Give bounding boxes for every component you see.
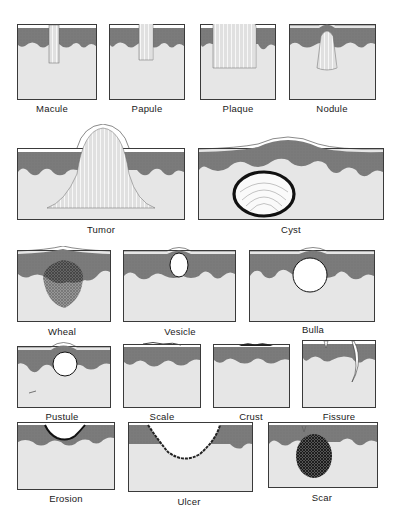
pustule-illustration (17, 342, 111, 408)
scale-illustration (123, 342, 201, 408)
panel-scar (268, 420, 378, 488)
label-tumor: Tumor (87, 224, 115, 235)
panel-scale (123, 342, 201, 408)
panel-cyst (198, 124, 384, 220)
label-ulcer: Ulcer (177, 496, 200, 507)
panel-nodule (289, 24, 376, 100)
label-erosion: Erosion (49, 493, 83, 504)
panel-plaque (200, 24, 276, 100)
label-vesicle: Vesicle (164, 326, 196, 337)
panel-ulcer (128, 420, 253, 492)
label-nodule: Nodule (316, 103, 347, 114)
nodule-illustration (289, 24, 376, 100)
panel-macule (17, 24, 97, 100)
crust-illustration (213, 342, 290, 408)
panel-vesicle (123, 246, 236, 322)
panel-wheal (17, 246, 111, 322)
vesicle-illustration (123, 246, 236, 322)
label-papule: Papule (132, 103, 163, 114)
label-macule: Macule (36, 103, 68, 114)
label-scar: Scar (312, 492, 332, 503)
wheal-illustration (17, 246, 111, 322)
label-plaque: Plaque (223, 103, 254, 114)
panel-fissure (302, 338, 376, 408)
papule-illustration (109, 24, 185, 100)
cyst-illustration (198, 124, 384, 220)
tumor-illustration (17, 124, 185, 220)
label-bulla: Bulla (302, 324, 324, 335)
label-wheal: Wheal (48, 326, 76, 337)
panel-pustule (17, 342, 111, 408)
panel-erosion (17, 420, 115, 490)
panel-tumor (17, 124, 185, 220)
panel-papule (109, 24, 185, 100)
panel-crust (213, 342, 290, 408)
ulcer-illustration (128, 420, 253, 492)
fissure-illustration (302, 338, 376, 408)
erosion-illustration (17, 420, 115, 490)
label-cyst: Cyst (281, 224, 301, 235)
plaque-illustration (200, 24, 276, 100)
macule-illustration (17, 24, 97, 100)
scar-illustration (268, 420, 378, 488)
bulla-illustration (249, 246, 375, 322)
panel-bulla (249, 246, 375, 322)
